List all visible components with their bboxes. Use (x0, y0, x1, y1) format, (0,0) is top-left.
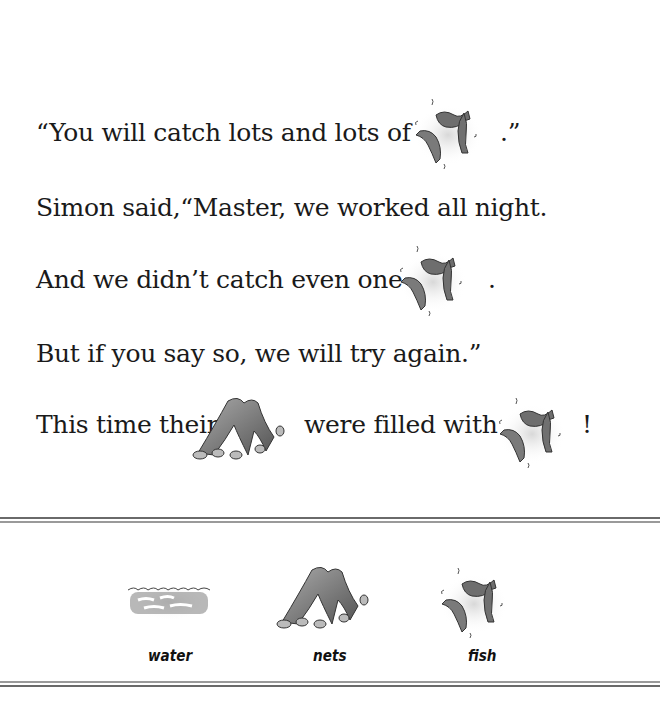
story-text: And we didn’t catch even one (36, 265, 403, 294)
legend-label-fish: fish (468, 646, 496, 665)
nets-icon (188, 393, 298, 465)
water-icon (124, 578, 214, 622)
divider-top (0, 517, 660, 524)
story-line-3: And we didn’t catch even one (36, 265, 403, 295)
story-text: were filled with (304, 410, 498, 440)
story-text: “You will catch lots and lots of (36, 118, 411, 147)
story-line-4: But if you say so, we will try again.” (36, 339, 481, 369)
nets-icon (272, 562, 382, 634)
divider-bottom (0, 681, 660, 688)
fish-icon (408, 97, 488, 173)
fish-icon (492, 396, 572, 472)
story-punctuation: . (488, 265, 496, 295)
fish-icon (393, 244, 473, 320)
legend-label-water: water (148, 646, 192, 665)
story-punctuation: ! (582, 410, 592, 440)
story-line-1: “You will catch lots and lots of (36, 118, 411, 148)
story-line-2: Simon said,“Master, we worked all night. (36, 193, 547, 223)
legend-label-nets: nets (313, 646, 347, 665)
story-punctuation: .” (500, 118, 520, 148)
fish-icon (434, 566, 514, 642)
